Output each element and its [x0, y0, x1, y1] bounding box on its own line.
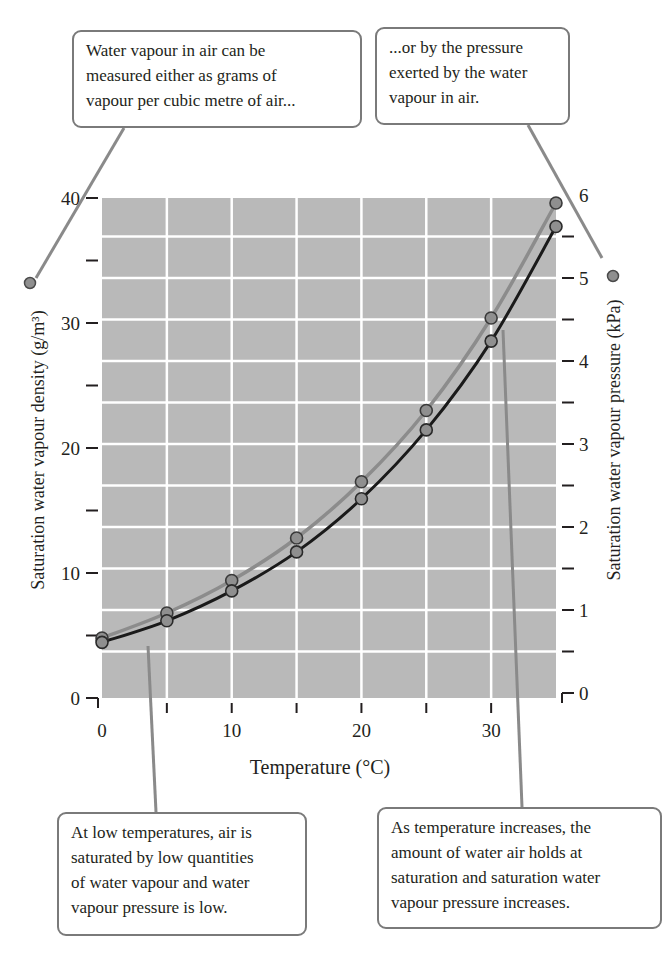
pressure-data-point	[550, 221, 562, 233]
callout-line: vapour pressure increases.	[391, 890, 648, 915]
left-tick-label: 30	[61, 313, 80, 334]
x-tick-label: 0	[97, 720, 107, 741]
x-tick-label: 20	[352, 720, 371, 741]
callout-line: Water vapour in air can be	[86, 38, 348, 63]
left-tick-label: 20	[61, 438, 80, 459]
left-tick-label: 10	[61, 563, 80, 584]
callout-line: vapour pressure is low.	[71, 895, 293, 920]
callout-low-temperature: At low temperatures, air is saturated by…	[57, 812, 307, 936]
x-axis: 0102030	[97, 703, 500, 741]
right-tick-label: 3	[579, 434, 589, 455]
right-tick-label: 1	[579, 600, 589, 621]
callout-line: As temperature increases, the	[391, 815, 648, 840]
right-tick-label: 6	[579, 185, 589, 206]
callout-line: ...or by the pressure	[389, 35, 556, 60]
callout-line: exerted by the water	[389, 60, 556, 85]
density-data-point	[420, 405, 432, 417]
density-data-point	[355, 476, 367, 488]
callout-line: measured either as grams of	[86, 63, 348, 88]
callout-line: amount of water air holds at	[391, 840, 648, 865]
callout-density: Water vapour in air can be measured eith…	[72, 30, 362, 128]
y-right-axis-title: Saturation water vapour pressure (kPa)	[604, 300, 625, 581]
callout-line: saturation and saturation water	[391, 865, 648, 890]
callout-line: vapour in air.	[389, 85, 556, 110]
pressure-data-point	[420, 424, 432, 436]
right-tick-label: 2	[579, 517, 589, 538]
right-tick-label: 0	[579, 683, 589, 704]
left-tick-label: 0	[71, 688, 81, 709]
density-series-marker-icon	[25, 278, 36, 289]
x-tick-label: 30	[482, 720, 501, 741]
pressure-data-point	[226, 585, 238, 597]
right-tick-label: 4	[579, 351, 589, 372]
density-data-point	[485, 312, 497, 324]
pressure-data-point	[96, 636, 108, 648]
callout-pressure: ...or by the pressure exerted by the wat…	[375, 27, 570, 125]
pressure-data-point	[291, 546, 303, 558]
pressure-data-point	[161, 615, 173, 627]
left-axis: 010203040	[61, 188, 98, 709]
x-tick-label: 10	[222, 720, 241, 741]
y-left-axis-title: Saturation water vapour density (g/m³)	[28, 310, 49, 589]
callout-line: At low temperatures, air is	[71, 820, 293, 845]
x-axis-title: Temperature (°C)	[250, 756, 390, 779]
pressure-series-marker-icon	[608, 271, 619, 282]
pressure-data-point	[355, 493, 367, 505]
density-data-point	[291, 532, 303, 544]
callout-line: vapour per cubic metre of air...	[86, 88, 348, 113]
callout-line: saturated by low quantities	[71, 845, 293, 870]
callout-temperature-increase: As temperature increases, the amount of …	[377, 807, 662, 929]
pressure-data-point	[485, 335, 497, 347]
density-data-point	[550, 197, 562, 209]
right-tick-label: 5	[579, 268, 589, 289]
right-axis: 0123456	[562, 185, 589, 704]
callout-line: of water vapour and water	[71, 870, 293, 895]
